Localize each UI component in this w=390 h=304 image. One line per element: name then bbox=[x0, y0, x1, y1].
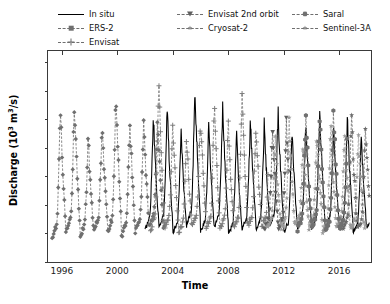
legend-label: Envisat 2nd orbit bbox=[208, 9, 279, 20]
data-point-marker bbox=[129, 151, 133, 155]
data-point-marker bbox=[63, 214, 67, 218]
data-point-marker bbox=[318, 119, 322, 124]
data-point-marker bbox=[201, 183, 206, 188]
data-point-marker bbox=[90, 201, 94, 205]
data-point-marker bbox=[217, 210, 222, 215]
data-point-marker bbox=[343, 185, 347, 190]
data-point-marker bbox=[118, 196, 122, 200]
data-point-marker bbox=[125, 192, 129, 196]
data-point-marker bbox=[172, 165, 177, 170]
data-point-marker bbox=[277, 199, 282, 204]
data-point-marker bbox=[282, 191, 287, 195]
data-point-marker bbox=[332, 189, 337, 194]
data-point-marker bbox=[143, 152, 147, 156]
data-point-marker bbox=[224, 186, 229, 191]
data-point-marker bbox=[278, 212, 283, 217]
data-point-marker bbox=[132, 218, 136, 222]
data-point-marker bbox=[51, 232, 55, 236]
legend-item-sentinel-3a: Sentinel-3A bbox=[292, 22, 371, 35]
data-point-marker bbox=[184, 139, 189, 144]
y-axis-label-sup2: 3 bbox=[7, 108, 15, 113]
legend-swatch bbox=[292, 9, 318, 20]
data-point-marker bbox=[366, 184, 371, 189]
data-point-marker bbox=[185, 150, 190, 155]
y-axis-tick-mark bbox=[45, 91, 49, 92]
legend-swatch bbox=[58, 9, 84, 20]
data-point-marker bbox=[353, 195, 358, 200]
data-point-marker bbox=[170, 123, 175, 128]
data-point-marker bbox=[228, 177, 233, 182]
data-point-marker bbox=[84, 190, 88, 194]
data-point-marker bbox=[281, 211, 286, 215]
data-point-marker bbox=[240, 91, 245, 96]
data-point-marker bbox=[145, 182, 149, 186]
series-canvas bbox=[48, 51, 371, 262]
data-point-marker bbox=[215, 185, 220, 190]
data-point-marker bbox=[128, 123, 132, 127]
legend-item-cryosat-2: Cryosat-2 bbox=[177, 22, 279, 35]
x-axis-tick-mark bbox=[228, 51, 229, 55]
data-point-marker bbox=[90, 216, 94, 220]
y-axis-label-tail: /s) bbox=[8, 95, 19, 109]
data-point-marker bbox=[334, 162, 338, 167]
data-point-marker bbox=[242, 153, 247, 158]
legend-swatch bbox=[292, 23, 318, 34]
y-axis-tick-mark bbox=[45, 176, 49, 177]
data-point-marker bbox=[326, 183, 331, 188]
data-point-marker bbox=[169, 146, 174, 151]
data-point-marker bbox=[214, 146, 219, 151]
series-line bbox=[151, 86, 268, 233]
plus-marker-icon bbox=[68, 39, 75, 46]
data-point-marker bbox=[74, 137, 78, 141]
data-point-marker bbox=[76, 187, 80, 191]
legend-label: Cryosat-2 bbox=[208, 23, 248, 34]
data-point-marker bbox=[284, 116, 289, 120]
data-point-marker bbox=[303, 172, 308, 177]
x-axis-tick-mark bbox=[62, 51, 63, 55]
data-point-marker bbox=[103, 176, 107, 180]
data-point-marker bbox=[149, 227, 154, 232]
data-point-marker bbox=[172, 153, 177, 158]
legend-swatch bbox=[177, 23, 203, 34]
legend-line bbox=[58, 14, 84, 15]
data-point-marker bbox=[173, 183, 178, 188]
data-point-marker bbox=[97, 198, 101, 202]
data-point-marker bbox=[254, 139, 259, 144]
data-point-marker bbox=[344, 161, 348, 166]
data-point-marker bbox=[259, 215, 264, 220]
legend-item-envisat: Envisat bbox=[58, 36, 119, 49]
data-point-marker bbox=[144, 173, 148, 177]
data-point-marker bbox=[69, 209, 73, 213]
data-point-marker bbox=[104, 202, 108, 206]
data-point-marker bbox=[100, 136, 104, 140]
data-point-marker bbox=[196, 174, 201, 179]
x-axis-tick-mark bbox=[173, 51, 174, 55]
data-point-marker bbox=[187, 192, 192, 197]
data-point-marker bbox=[334, 171, 338, 176]
data-point-marker bbox=[181, 216, 186, 221]
data-point-marker bbox=[343, 200, 347, 205]
data-point-marker bbox=[270, 130, 275, 134]
data-point-marker bbox=[195, 204, 200, 209]
data-point-marker bbox=[275, 209, 280, 213]
data-point-marker bbox=[132, 203, 136, 207]
triangle-down-marker-icon bbox=[187, 12, 193, 17]
y-axis-label-host: Discharge (103 m3/s) bbox=[8, 50, 22, 263]
data-point-marker bbox=[308, 206, 312, 211]
data-point-marker bbox=[77, 218, 81, 222]
data-point-marker bbox=[243, 174, 248, 179]
data-point-marker bbox=[315, 186, 319, 191]
data-point-marker bbox=[235, 215, 240, 220]
data-point-marker bbox=[227, 157, 232, 162]
data-point-marker bbox=[100, 131, 104, 135]
x-axis-tick-label: 2016 bbox=[328, 266, 351, 276]
legend-column-1: In situERS-2Envisat bbox=[58, 8, 119, 50]
data-point-marker bbox=[168, 192, 173, 197]
data-point-marker bbox=[332, 205, 337, 210]
data-point-marker bbox=[85, 165, 89, 169]
data-point-marker bbox=[84, 202, 88, 206]
y-axis-tick-mark bbox=[45, 262, 49, 263]
data-point-marker bbox=[335, 193, 339, 198]
data-point-marker bbox=[141, 118, 145, 122]
data-point-marker bbox=[139, 195, 143, 199]
